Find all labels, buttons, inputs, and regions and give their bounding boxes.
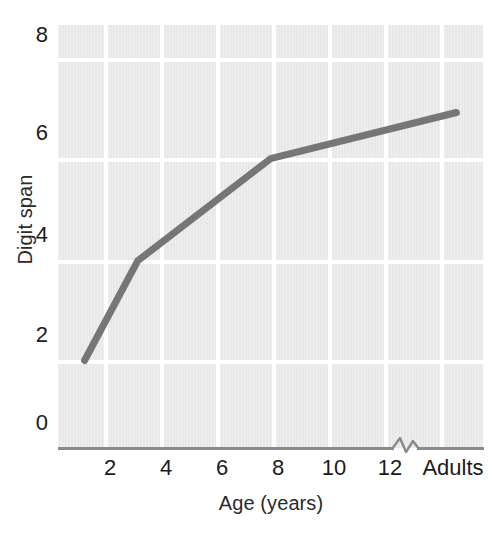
x-tick-label-10: 10 (309, 455, 359, 481)
x-tick-label-2: 2 (85, 455, 135, 481)
y-tick-label-0: 0 (8, 410, 48, 436)
y-tick-label-8: 8 (8, 22, 48, 48)
digit-span-line-chart: Digit span 8 6 4 2 0 2 4 6 8 10 12 Ad (0, 0, 502, 533)
x-tick-label-8: 8 (253, 455, 303, 481)
y-tick-label-6: 6 (8, 120, 48, 146)
x-axis-line (417, 447, 484, 450)
x-tick-label-4: 4 (141, 455, 191, 481)
y-tick-label-2: 2 (8, 322, 48, 348)
axis-break-icon (392, 434, 420, 456)
x-axis-line (58, 447, 394, 450)
plot-area (58, 25, 483, 448)
y-tick-label-4: 4 (8, 222, 48, 248)
y-axis-title: Digit span (14, 150, 37, 290)
x-tick-label-adults: Adults (405, 455, 501, 481)
x-axis-title: Age (years) (58, 492, 484, 515)
x-tick-label-6: 6 (197, 455, 247, 481)
data-series-line (58, 25, 483, 448)
